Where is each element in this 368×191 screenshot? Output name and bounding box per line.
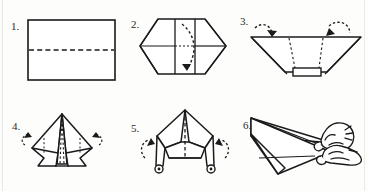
leg-end-dot-left xyxy=(158,168,161,171)
step-panel-1 xyxy=(0,0,123,95)
arrow-curve-left xyxy=(142,140,149,158)
hand-lower xyxy=(322,145,361,165)
step-1-figure xyxy=(0,0,123,95)
step-panel-4 xyxy=(0,96,123,191)
leg-end-dot-right xyxy=(210,168,213,171)
arrow-head-left xyxy=(24,132,32,138)
step-5-figure xyxy=(123,96,246,191)
step-6-figure xyxy=(245,96,368,191)
step-panel-6 xyxy=(245,96,368,191)
step-4-figure xyxy=(0,96,123,191)
arrow-head-right xyxy=(92,132,100,138)
step-number-5: 5. xyxy=(131,123,139,134)
step-number-4: 4. xyxy=(12,121,20,132)
step-number-6: 6. xyxy=(243,120,251,131)
arrow-head-left xyxy=(267,30,277,37)
arrow-curve-right xyxy=(221,140,228,158)
step-number-2: 2. xyxy=(131,19,139,30)
arrow-head-left xyxy=(147,138,155,146)
step-number-3: 3. xyxy=(240,16,248,27)
step-3-figure xyxy=(245,0,368,95)
step-panel-2 xyxy=(123,0,246,95)
arrow-head-right xyxy=(326,28,335,36)
step-panel-3 xyxy=(245,0,368,95)
arrow-head-right xyxy=(215,138,223,146)
step-2-figure xyxy=(123,0,246,95)
step-panel-5 xyxy=(123,96,246,191)
instruction-sheet: 1. 2. xyxy=(0,0,368,191)
step-number-1: 1. xyxy=(11,21,19,32)
bottom-tab xyxy=(293,68,321,76)
